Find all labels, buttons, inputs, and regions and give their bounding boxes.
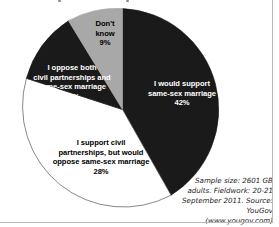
slice-label-line: partnerships, but would	[59, 148, 144, 157]
slice-label-line: know	[95, 29, 114, 38]
slice-label-line: I oppose both	[47, 63, 96, 72]
source-note-line: September 2011. Source:	[182, 196, 273, 205]
slice-label-oppose-both: I oppose both civil partnerships and sam…	[25, 63, 119, 101]
slice-label-support-ssm: I would support same-sex marriage 42%	[140, 79, 224, 108]
figure-frame-right	[272, 0, 273, 223]
slice-label-line: civil partnerships and	[33, 73, 110, 82]
pie-chart-figure: I would support same-sex marriage 42% I …	[0, 0, 279, 227]
cropped-heading-remnant	[0, 0, 279, 3]
slice-label-line: same-sex marriage	[148, 89, 216, 98]
source-note-line: Sample size: 2601 GB	[195, 176, 273, 185]
slice-label-dont-know: Don't know 9%	[83, 19, 127, 48]
slice-label-line: same-sex marriage	[38, 82, 106, 91]
slice-value-support-ssm: 42%	[140, 98, 224, 108]
slice-label-line: I would support	[154, 79, 210, 88]
slice-label-line: oppose same-sex marriage	[53, 157, 150, 166]
slice-label-support-cp: I support civil partnerships, but would …	[45, 138, 157, 176]
figure-frame-bottom	[0, 222, 273, 223]
slice-label-line: Don't	[96, 19, 115, 28]
slice-value-dont-know: 9%	[83, 38, 127, 48]
slice-label-line: I support civil	[77, 138, 126, 147]
slice-value-oppose-both: 21%	[25, 92, 119, 102]
source-note-line: adults. Fieldwork: 20-21	[187, 186, 273, 195]
source-note: Sample size: 2601 GB adults. Fieldwork: …	[178, 176, 273, 226]
slice-value-support-cp: 28%	[45, 167, 157, 177]
